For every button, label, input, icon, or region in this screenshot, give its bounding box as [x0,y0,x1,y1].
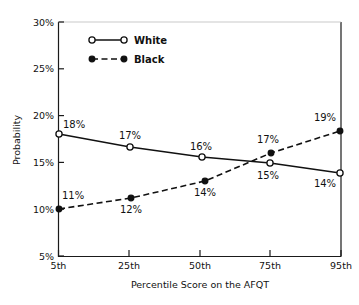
x-axis-title: Percentile Score on the AFQT [131,279,269,290]
y-tick-label-25: 25% [33,63,54,74]
label-black-75th: 17% [257,134,279,145]
x-tick-label-95th: 95th [330,260,352,271]
chart-figure: 30% 25% 20% 15% 10% 5% 5th 25th 50th 75t… [0,0,359,305]
series-black-point-95th [337,128,343,134]
legend-marker-black-start [89,56,95,62]
label-black-5th: 11% [62,190,84,201]
legend-marker-white-end [121,37,127,43]
x-tick-label-25th: 25th [118,260,140,271]
legend-label-black: Black [134,54,165,65]
series-black-point-5th [56,206,62,212]
y-tick-label-10: 10% [33,204,54,215]
series-black-point-75th [268,150,274,156]
axes [59,22,342,257]
label-white-50th: 16% [190,141,212,152]
x-tick-label-75th: 75th [259,260,281,271]
y-tick-label-20: 20% [33,110,54,121]
legend-label-white: White [134,35,167,46]
x-tick-label-50th: 50th [189,260,211,271]
series-black-point-50th [202,178,208,184]
series-white-point-50th [199,154,205,160]
label-white-95th: 14% [314,178,336,189]
y-tick-label-15: 15% [33,157,54,168]
label-black-95th: 19% [314,112,336,123]
series-white-data-labels: 18% 17% 16% 15% 14% [63,119,336,189]
series-white [56,131,343,176]
y-axis-ticks [59,22,65,256]
series-white-point-95th [337,170,343,176]
y-axis-tick-labels: 30% 25% 20% 15% 10% 5% [33,17,54,262]
legend-marker-black-end [121,56,127,62]
label-white-75th: 15% [257,170,279,181]
label-white-5th: 18% [63,119,85,130]
chart-svg: 30% 25% 20% 15% 10% 5% 5th 25th 50th 75t… [0,0,359,305]
label-black-25th: 12% [120,204,142,215]
x-tick-label-5th: 5th [51,260,67,271]
series-black-data-labels: 11% 12% 14% 17% 19% [62,112,336,215]
x-axis-ticks [59,250,342,257]
legend-marker-white-start [89,37,95,43]
series-white-point-75th [267,160,273,166]
label-black-50th: 14% [194,187,216,198]
series-white-line [59,134,340,173]
legend-item-white[interactable]: White [89,35,167,46]
y-axis-title: Probability [11,115,22,166]
label-white-25th: 17% [119,130,141,141]
series-white-point-5th [56,131,62,137]
chart-legend: White Black [89,35,167,65]
axis-lines [59,22,342,257]
series-white-point-25th [127,144,133,150]
series-black-point-25th [128,195,134,201]
legend-item-black[interactable]: Black [89,54,165,65]
y-tick-label-30: 30% [33,17,54,28]
x-axis-tick-labels: 5th 25th 50th 75th 95th [51,260,352,271]
